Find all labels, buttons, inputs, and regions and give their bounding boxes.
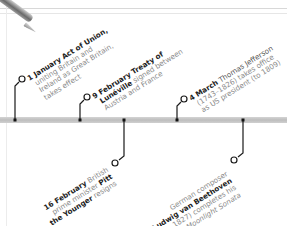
connectors [0, 0, 287, 226]
timeline-diagram: 1 January Act of Union, uniting Britain … [0, 0, 287, 226]
